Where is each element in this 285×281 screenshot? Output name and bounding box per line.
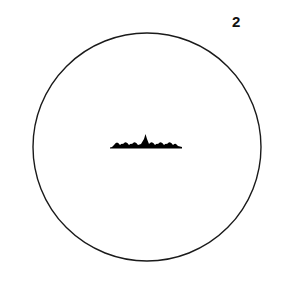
- figure-diagram: [0, 0, 285, 281]
- waveform-shape: [110, 134, 182, 149]
